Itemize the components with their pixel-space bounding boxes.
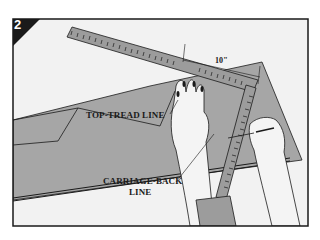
measurement-label: 10" bbox=[215, 56, 228, 66]
stair-layout-diagram bbox=[0, 0, 320, 240]
left-sleeve bbox=[196, 196, 236, 226]
top-tread-label: TOP-TREAD LINE bbox=[86, 110, 165, 120]
step-number: 2 bbox=[14, 17, 21, 32]
illustration: 2 TOP-TREAD LINE CARRIAGE-BACK LINE 10" bbox=[0, 0, 320, 240]
carriage-back-label-line1: CARRIAGE-BACK bbox=[103, 176, 182, 186]
carriage-back-label-line2: LINE bbox=[129, 187, 151, 197]
